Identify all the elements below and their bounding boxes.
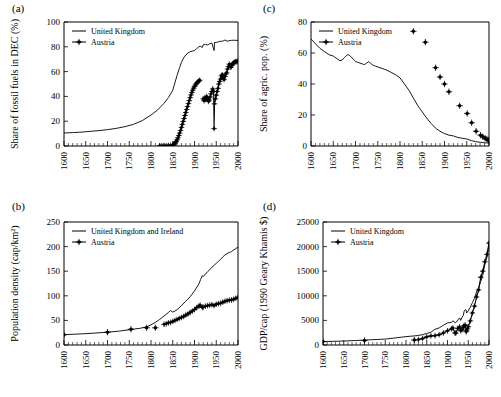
y-tick-label: 10000 <box>297 291 320 301</box>
series-marker-cross <box>211 126 217 132</box>
x-tick-label: 1600 <box>306 152 316 171</box>
y-tick-label: 0 <box>56 340 61 350</box>
y-tick-label: 100 <box>47 17 61 27</box>
series-marker-cross <box>472 303 478 309</box>
series-marker-cross <box>61 331 67 337</box>
panel-label-b: (b) <box>12 200 25 212</box>
legend-label: United Kingdom <box>91 27 146 36</box>
panel-label-c: (c) <box>263 2 275 14</box>
chart-panel-a: (a)0204060801001600165017001750180018501… <box>0 0 250 198</box>
legend-entry: United Kingdom <box>319 27 393 36</box>
y-tick-label: 60 <box>298 48 308 58</box>
series-line-a-2 <box>203 61 238 128</box>
x-tick-label: 1750 <box>380 351 390 370</box>
x-tick-label: 1850 <box>422 351 432 370</box>
x-tick-label: 1650 <box>328 152 338 171</box>
y-tick-label: 80 <box>298 17 308 27</box>
chart-panel-b: (b)0501001502002501600165017001750180018… <box>0 198 250 397</box>
series-marker-cross <box>416 337 422 343</box>
y-axis-title-a: Share of fossil fuels in DEC (%) <box>9 19 21 149</box>
chart-panel-d: (d)0500010000150002000025000160016501700… <box>251 198 501 397</box>
x-tick-label: 1600 <box>318 351 328 370</box>
x-tick-label: 2000 <box>233 351 243 370</box>
legend-label: Austria <box>350 238 374 247</box>
y-tick-label: 20000 <box>297 242 320 252</box>
chart-panel-c: (c)0204060801600165017001750180018501900… <box>251 0 501 198</box>
panel-label-a: (a) <box>12 2 24 14</box>
series-marker-cross <box>441 81 447 87</box>
x-tick-label: 1700 <box>351 152 361 171</box>
x-tick-label: 1750 <box>373 152 383 171</box>
x-tick-label: 1650 <box>339 351 349 370</box>
series-marker-cross <box>361 337 367 343</box>
series-marker-cross <box>432 333 438 339</box>
y-tick-label: 25000 <box>297 217 320 227</box>
y-tick-label: 0 <box>315 340 320 350</box>
y-tick-label: 0 <box>303 141 308 151</box>
x-tick-label: 2000 <box>484 152 494 171</box>
x-tick-label: 1750 <box>124 351 134 370</box>
plot-area-b: 0501001502002501600165017001750180018501… <box>0 198 250 397</box>
series-marker-cross <box>422 39 428 45</box>
series-marker-cross <box>437 74 443 80</box>
legend-entry: Austria <box>319 38 362 47</box>
y-tick-label: 15000 <box>297 266 320 276</box>
legend-entry: Austria <box>72 38 115 47</box>
series-line-a-0 <box>64 40 238 133</box>
legend-label: Austria <box>91 238 115 247</box>
x-tick-label: 1900 <box>440 152 450 171</box>
x-tick-label: 1900 <box>190 152 200 171</box>
series-marker-cross <box>128 326 134 332</box>
legend-entry: United Kingdom <box>72 27 146 36</box>
series-marker-cross <box>214 89 220 95</box>
y-tick-label: 40 <box>51 91 61 101</box>
y-axis-title-c: Share of agric. pop. (%) <box>258 36 270 132</box>
y-tick-label: 100 <box>47 291 61 301</box>
x-tick-label: 1800 <box>395 152 405 171</box>
legend-label: United Kingdom <box>350 227 405 236</box>
legend-entry: Austria <box>331 238 374 247</box>
x-tick-label: 1600 <box>59 351 69 370</box>
x-tick-label: 1800 <box>401 351 411 370</box>
series-marker-cross <box>104 329 110 335</box>
series-marker-cross <box>468 120 474 126</box>
series-marker-cross <box>456 103 462 109</box>
y-tick-label: 250 <box>47 217 61 227</box>
y-tick-label: 80 <box>51 42 61 52</box>
x-tick-label: 1800 <box>146 351 156 370</box>
series-marker-cross <box>482 259 488 265</box>
y-tick-label: 5000 <box>301 315 320 325</box>
x-tick-label: 1900 <box>443 351 453 370</box>
x-tick-label: 1950 <box>211 351 221 370</box>
x-tick-label: 1950 <box>463 351 473 370</box>
y-tick-label: 40 <box>298 79 308 89</box>
legend-entry: United Kingdom and Ireland <box>72 227 183 236</box>
series-line-b-0 <box>64 247 238 335</box>
y-tick-label: 60 <box>51 67 61 77</box>
legend-label: United Kingdom and Ireland <box>91 227 183 236</box>
x-tick-label: 2000 <box>233 152 243 171</box>
series-marker-cross <box>470 310 476 316</box>
x-tick-label: 1900 <box>190 351 200 370</box>
y-tick-label: 0 <box>56 141 61 151</box>
x-tick-label: 1950 <box>211 152 221 171</box>
x-tick-label: 1850 <box>168 351 178 370</box>
y-tick-label: 20 <box>51 116 61 126</box>
series-marker-cross <box>411 337 417 343</box>
series-marker-cross <box>320 338 326 344</box>
legend-entry: Austria <box>72 238 115 247</box>
y-tick-label: 20 <box>298 110 308 120</box>
plot-area-d: 0500010000150002000025000160016501700175… <box>251 198 501 397</box>
series-marker-cross <box>215 86 221 92</box>
series-marker-cross <box>432 65 438 71</box>
series-marker-cross <box>213 92 219 98</box>
series-marker-cross <box>152 325 158 331</box>
series-marker-cross <box>464 110 470 116</box>
series-marker-cross <box>212 101 218 107</box>
y-axis-title-d: GDP/cap (1990 Geary Khamis $) <box>258 217 270 351</box>
x-tick-label: 1850 <box>417 152 427 171</box>
plot-area-c: 0204060801600165017001750180018501900195… <box>251 0 501 198</box>
legend-entry: United Kingdom <box>331 227 405 236</box>
y-axis-title-b: Population density (cap/km²) <box>9 225 21 341</box>
legend-label: United Kingdom <box>338 27 393 36</box>
